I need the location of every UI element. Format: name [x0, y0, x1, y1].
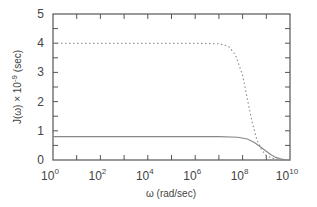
x-tick-label: 108 [231, 167, 249, 183]
y-axis-label: J(ω) × 10-9 (sec) [10, 50, 23, 124]
y-tick-label: 4 [37, 36, 44, 50]
y-tick-label: 1 [37, 124, 44, 138]
axis-ticks [53, 14, 290, 160]
y-tick-label: 5 [37, 7, 44, 21]
y-tick-label: 0 [37, 153, 44, 167]
x-tick-label: 1010 [276, 167, 299, 183]
y-tick-label: 2 [37, 95, 44, 109]
x-tick-label: 106 [183, 167, 201, 183]
x-tick-label: 100 [41, 167, 59, 183]
x-tick-label: 104 [136, 167, 154, 183]
chart: 1001021041061081010012345 ω (rad/sec) J(… [0, 0, 317, 207]
y-tick-label: 3 [37, 65, 44, 79]
x-axis-label: ω (rad/sec) [146, 188, 196, 199]
data-series [53, 43, 290, 160]
x-tick-label: 102 [88, 167, 106, 183]
plot-border [53, 14, 290, 160]
plot-frame [53, 14, 290, 160]
